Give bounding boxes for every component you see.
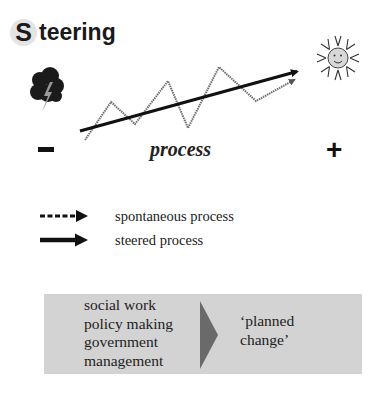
process-diagram: [0, 0, 383, 200]
legend: spontaneous process steered process: [38, 204, 234, 252]
legend-item-spontaneous: spontaneous process: [38, 204, 234, 228]
actor-item: policy making: [84, 315, 173, 334]
triangle-arrow-icon: [200, 301, 218, 369]
smiling-sun-icon: [317, 36, 359, 80]
solid-arrow-icon: [38, 233, 90, 247]
result-line: ‘planned: [240, 312, 294, 331]
planned-change-label: ‘planned change’: [240, 312, 294, 349]
legend-label: steered process: [115, 232, 203, 249]
minus-sign: [38, 147, 54, 152]
actor-list: social work policy making government man…: [84, 296, 173, 370]
plus-sign: +: [326, 136, 342, 164]
actor-item: social work: [84, 296, 173, 315]
actor-item: management: [84, 352, 173, 371]
process-axis-label: process: [150, 138, 211, 161]
legend-label: spontaneous process: [115, 208, 234, 225]
storm-cloud-icon: [30, 67, 64, 112]
spontaneous-process-line: [85, 67, 294, 140]
planned-change-box: social work policy making government man…: [44, 294, 362, 374]
steering-slide: S teering: [0, 0, 383, 395]
legend-item-steered: steered process: [38, 228, 234, 252]
result-line: change’: [240, 331, 294, 350]
steered-process-arrow: [80, 72, 297, 132]
dashed-arrow-icon: [38, 209, 90, 223]
actor-item: government: [84, 333, 173, 352]
